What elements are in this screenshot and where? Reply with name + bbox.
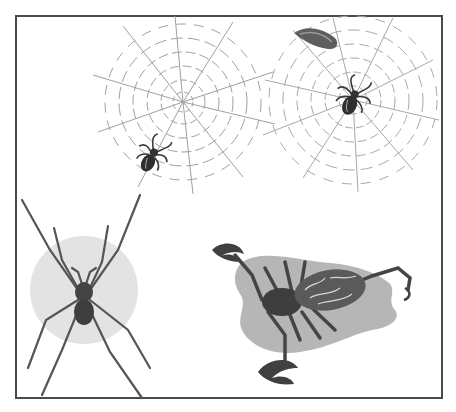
wolf-spider-icon <box>22 195 150 398</box>
scorpion-icon <box>212 244 410 385</box>
spider-small-left-icon <box>130 129 177 179</box>
illustration-canvas <box>0 0 456 412</box>
spider-web-left-icon <box>93 16 275 194</box>
